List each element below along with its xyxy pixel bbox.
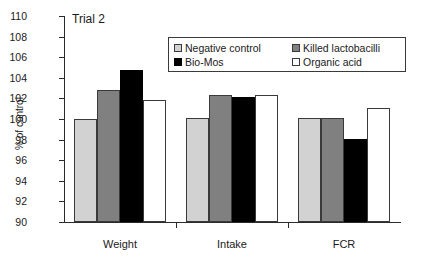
legend-swatch-icon <box>174 58 182 66</box>
y-tick-label: 108 <box>1 32 27 42</box>
bar <box>74 119 97 222</box>
y-tick-label: 92 <box>1 196 27 206</box>
y-tick <box>59 98 64 99</box>
y-axis-line <box>64 16 65 223</box>
y-tick <box>59 119 64 120</box>
y-tick <box>59 181 64 182</box>
legend: Negative controlKilled lactobacilliBio-M… <box>168 37 406 72</box>
x-tick-label: Intake <box>177 238 287 250</box>
x-tick <box>176 223 177 228</box>
legend-item[interactable]: Bio-Mos <box>174 57 292 68</box>
y-tick-label: 98 <box>1 135 27 145</box>
y-tick-label: 90 <box>1 217 27 227</box>
y-tick <box>59 57 64 58</box>
y-tick <box>59 140 64 141</box>
x-axis-line <box>64 222 401 223</box>
legend-swatch-icon <box>174 44 182 52</box>
y-tick-label: 96 <box>1 155 27 165</box>
y-tick <box>59 160 64 161</box>
y-tick-label: 94 <box>1 176 27 186</box>
legend-item[interactable]: Organic acid <box>292 57 404 68</box>
legend-item[interactable]: Negative control <box>174 43 292 54</box>
bar-chart: % of control Trial 2 9092949698100102104… <box>0 0 433 258</box>
y-tick-label: 110 <box>1 11 27 21</box>
bar <box>367 108 390 222</box>
y-tick <box>59 222 64 223</box>
legend-item[interactable]: Killed lactobacilli <box>292 43 404 54</box>
bar <box>255 95 278 222</box>
y-tick-label: 106 <box>1 52 27 62</box>
bar <box>321 118 344 222</box>
legend-label: Negative control <box>185 43 261 54</box>
y-tick <box>59 37 64 38</box>
bar <box>186 118 209 222</box>
y-tick-label: 104 <box>1 73 27 83</box>
y-tick <box>59 16 64 17</box>
legend-swatch-icon <box>292 44 300 52</box>
legend-label: Bio-Mos <box>185 57 224 68</box>
legend-swatch-icon <box>292 58 300 66</box>
bar <box>143 100 166 222</box>
bar <box>120 70 143 222</box>
legend-label: Organic acid <box>303 57 362 68</box>
y-tick <box>59 201 64 202</box>
bar <box>298 118 321 222</box>
legend-label: Killed lactobacilli <box>303 43 380 54</box>
y-tick-label: 100 <box>1 114 27 124</box>
x-tick-label: FCR <box>289 238 399 250</box>
x-tick-label: Weight <box>65 238 175 250</box>
bar <box>209 95 232 222</box>
bar <box>344 139 367 222</box>
y-tick-label: 102 <box>1 93 27 103</box>
y-tick <box>59 78 64 79</box>
bar <box>97 90 120 222</box>
bar <box>232 97 255 222</box>
x-tick <box>288 223 289 228</box>
